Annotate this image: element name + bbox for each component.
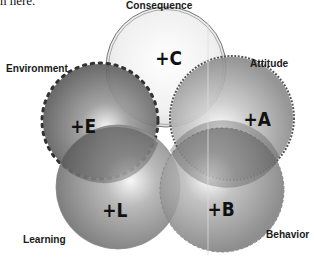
label-learning: Learning bbox=[23, 233, 66, 245]
label-environment: Environment bbox=[6, 62, 68, 74]
label-consequence: Consequence bbox=[126, 0, 192, 11]
symbol-learning: +L bbox=[102, 198, 127, 222]
symbol-consequence: +C bbox=[155, 46, 182, 70]
label-attitude: Attitude bbox=[250, 57, 288, 69]
symbol-behavior: +B bbox=[207, 197, 234, 221]
symbol-environment: +E bbox=[70, 114, 96, 138]
symbol-attitude: +A bbox=[243, 107, 270, 131]
label-behavior: Behavior bbox=[266, 228, 309, 240]
